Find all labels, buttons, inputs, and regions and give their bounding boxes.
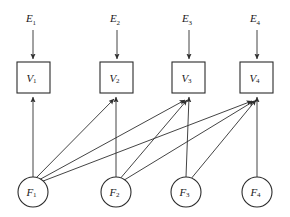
edge-f1-v4 bbox=[38, 101, 252, 183]
node-e2-subscript: 2 bbox=[117, 19, 121, 27]
edge-f1-v3 bbox=[37, 100, 185, 181]
node-v1[interactable]: V1 bbox=[17, 62, 50, 93]
node-e1-subscript: 1 bbox=[33, 19, 37, 27]
node-f3-subscript: 3 bbox=[186, 191, 190, 199]
node-f1-subscript: 1 bbox=[33, 191, 37, 199]
edge-f1-v2 bbox=[35, 99, 114, 179]
svg-text:E3: E3 bbox=[181, 12, 193, 27]
svg-text:E4: E4 bbox=[249, 12, 261, 27]
diagram-canvas: E1 E2 E3 E4 bbox=[0, 0, 290, 217]
node-e3: E3 bbox=[181, 12, 193, 27]
node-e1: E1 bbox=[25, 12, 37, 27]
edge-f2-v3 bbox=[119, 100, 187, 180]
node-v1-subscript: 1 bbox=[33, 77, 37, 85]
node-e3-subscript: 3 bbox=[189, 19, 193, 27]
factor-edge-group bbox=[33, 97, 257, 183]
node-f4[interactable]: F4 bbox=[242, 177, 272, 207]
node-v3-subscript: 3 bbox=[188, 77, 192, 85]
node-f2-subscript: 2 bbox=[116, 191, 120, 199]
node-e2: E2 bbox=[109, 12, 121, 27]
node-f3[interactable]: F3 bbox=[171, 177, 201, 207]
node-f4-subscript: 4 bbox=[257, 191, 261, 199]
edge-f3-v3 bbox=[186, 97, 189, 177]
node-e4-subscript: 4 bbox=[257, 19, 261, 27]
node-f1[interactable]: F1 bbox=[18, 177, 48, 207]
svg-text:E1: E1 bbox=[25, 12, 37, 27]
external-edge-group bbox=[33, 30, 257, 59]
diagram-svg: E1 E2 E3 E4 bbox=[0, 0, 290, 217]
node-v2[interactable]: V2 bbox=[100, 62, 133, 93]
node-v4[interactable]: V4 bbox=[240, 62, 273, 93]
external-node-group: E1 E2 E3 E4 bbox=[25, 12, 261, 27]
node-f2[interactable]: F2 bbox=[101, 177, 131, 207]
factor-node-group: F1 F2 F3 F4 bbox=[18, 177, 272, 207]
node-v2-subscript: 2 bbox=[116, 77, 120, 85]
variable-node-group: V1 V2 V3 V4 bbox=[17, 62, 273, 93]
node-v4-subscript: 4 bbox=[256, 77, 260, 85]
node-e4: E4 bbox=[249, 12, 261, 27]
node-v3[interactable]: V3 bbox=[172, 62, 205, 93]
svg-text:E2: E2 bbox=[109, 12, 121, 27]
